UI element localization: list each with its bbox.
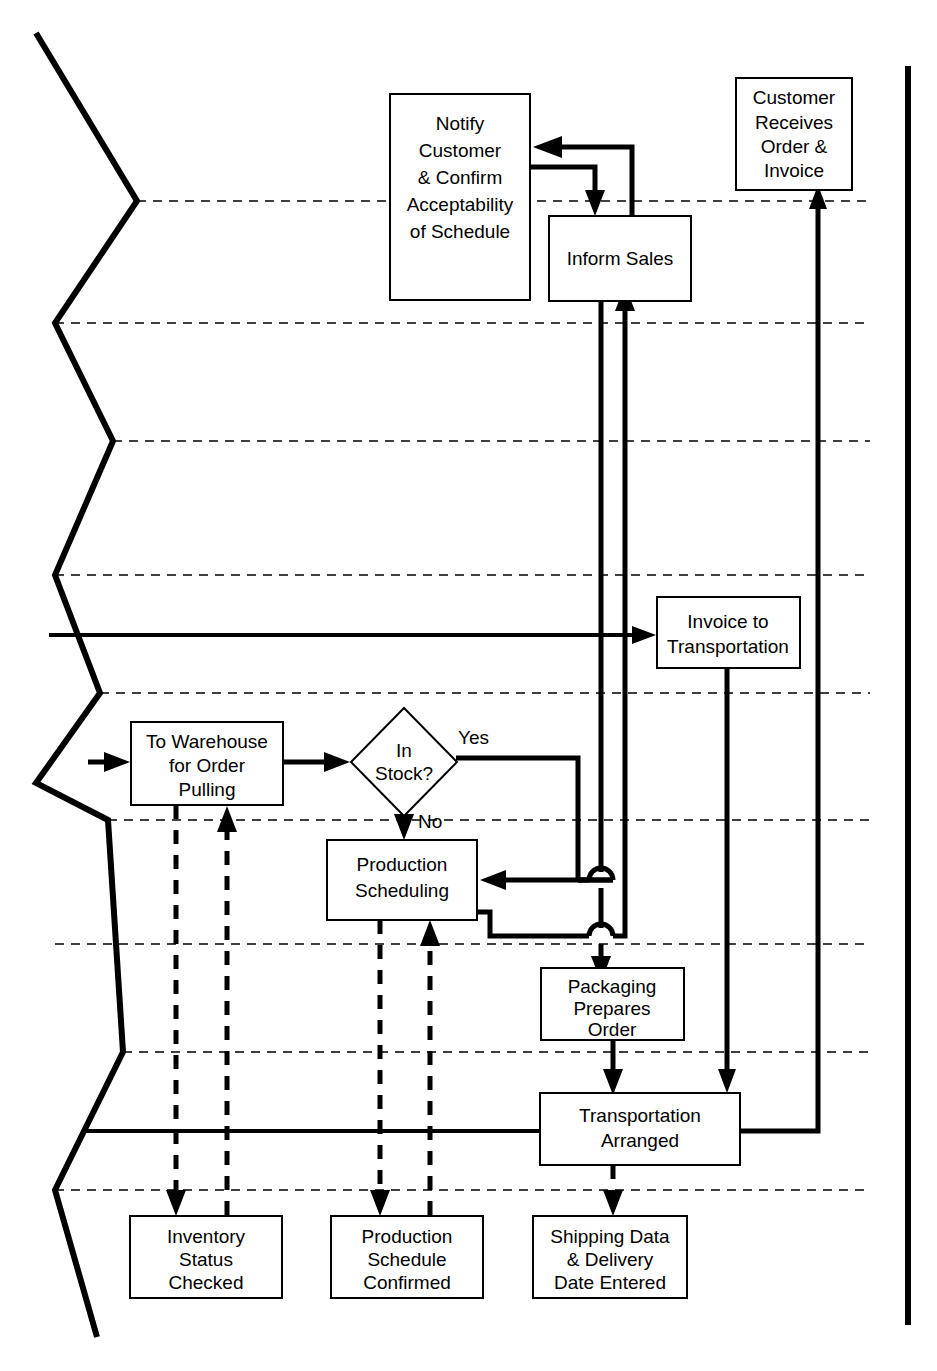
customer-receives-line-3: Order & [761, 136, 828, 157]
edge-label-no: No [418, 811, 442, 832]
node-in-stock-decision[interactable]: In Stock? [351, 708, 457, 816]
packaging-line-1: Packaging [568, 976, 657, 997]
transportation-arranged-line-2: Arranged [601, 1130, 679, 1151]
arrowhead-invoice-to-transportation [632, 626, 656, 644]
edge-warehouse-to-instock [283, 752, 350, 772]
arrowhead-to-warehouse [104, 752, 130, 772]
edge-loop-to-notify-customer [533, 136, 632, 216]
arrowhead-shipping-data [603, 1190, 623, 1216]
node-invoice-to-transportation[interactable]: Invoice to Transportation [657, 597, 800, 668]
inform-sales-line-1: Inform Sales [567, 248, 674, 269]
customer-receives-line-1: Customer [753, 87, 836, 108]
customer-receives-line-4: Invoice [764, 160, 824, 181]
transportation-arranged-line-1: Transportation [579, 1105, 701, 1126]
production-scheduling-line-1: Production [357, 854, 448, 875]
node-production-schedule-confirmed[interactable]: Production Schedule Confirmed [331, 1216, 483, 1298]
left-zigzag-boundary [36, 33, 137, 1337]
arrowhead-inform-sales-top [585, 190, 605, 216]
node-inform-sales[interactable]: Inform Sales [549, 216, 691, 301]
edge-notify-to-inform-sales [530, 167, 605, 216]
arrowhead-in-stock [324, 752, 350, 772]
node-to-warehouse-for-order-pulling[interactable]: To Warehouse for Order Pulling [131, 722, 283, 805]
node-inventory-status-checked[interactable]: Inventory Status Checked [130, 1216, 282, 1298]
production-scheduling-line-2: Scheduling [355, 880, 449, 901]
node-production-scheduling[interactable]: Production Scheduling [327, 840, 477, 920]
notify-customer-line-4: Acceptability [407, 194, 514, 215]
edge-invoice-to-transportation-arranged [718, 668, 736, 1093]
to-warehouse-line-1: To Warehouse [146, 731, 268, 752]
production-schedule-confirmed-line-3: Confirmed [363, 1272, 451, 1293]
notify-customer-line-5: of Schedule [410, 221, 510, 242]
notify-customer-line-2: Customer [419, 140, 502, 161]
edge-to-warehouse [88, 752, 130, 772]
shipping-data-line-3: Date Entered [554, 1272, 666, 1293]
edge-order-entry-to-invoice [49, 626, 656, 644]
shipping-data-line-1: Shipping Data [550, 1226, 670, 1247]
node-transportation-arranged[interactable]: Transportation Arranged [540, 1093, 740, 1165]
packaging-line-3: Order [588, 1019, 637, 1040]
notify-customer-line-1: Notify [436, 113, 485, 134]
in-stock-line-2: Stock? [375, 763, 433, 784]
arrowhead-warehouse-bottom [217, 806, 237, 832]
flowchart-canvas: Notify Customer & Confirm Acceptability … [0, 0, 937, 1371]
arrowhead-production-scheduling-top [394, 814, 414, 840]
arrowhead-inventory-status [166, 1190, 186, 1216]
arrowhead-production-scheduling-bottom [420, 920, 440, 946]
node-customer-receives-order-invoice[interactable]: Customer Receives Order & Invoice [736, 78, 852, 190]
arrowhead-production-schedule-confirmed [370, 1190, 390, 1216]
node-shipping-data-delivery-date-entered[interactable]: Shipping Data & Delivery Date Entered [533, 1216, 687, 1298]
inventory-status-line-2: Status [179, 1249, 233, 1270]
customer-receives-line-2: Receives [755, 112, 833, 133]
inventory-status-line-3: Checked [169, 1272, 244, 1293]
to-warehouse-line-2: for Order [169, 755, 246, 776]
packaging-line-2: Prepares [573, 998, 650, 1019]
in-stock-line-1: In [396, 740, 412, 761]
arrowhead-notify-customer [533, 136, 562, 158]
edge-label-yes: Yes [458, 727, 489, 748]
invoice-to-transportation-line-2: Transportation [667, 636, 789, 657]
node-notify-customer-confirm-acceptability[interactable]: Notify Customer & Confirm Acceptability … [390, 94, 530, 300]
inventory-status-line-1: Inventory [167, 1226, 246, 1247]
edge-packaging-to-transportation [603, 1040, 623, 1095]
arrowhead-production-scheduling-right [480, 870, 506, 890]
arrowhead-transportation-arranged-left [603, 1069, 623, 1095]
edge-production-to-inform-sales [477, 285, 635, 936]
shipping-data-line-2: & Delivery [567, 1249, 654, 1270]
production-schedule-confirmed-line-2: Schedule [367, 1249, 446, 1270]
invoice-to-transportation-line-1: Invoice to [687, 611, 768, 632]
arrowhead-transportation-arranged-right [718, 1069, 736, 1093]
notify-customer-line-3: & Confirm [418, 167, 502, 188]
production-schedule-confirmed-line-1: Production [362, 1226, 453, 1247]
to-warehouse-line-3: Pulling [178, 779, 235, 800]
node-packaging-prepares-order[interactable]: Packaging Prepares Order [541, 968, 684, 1040]
